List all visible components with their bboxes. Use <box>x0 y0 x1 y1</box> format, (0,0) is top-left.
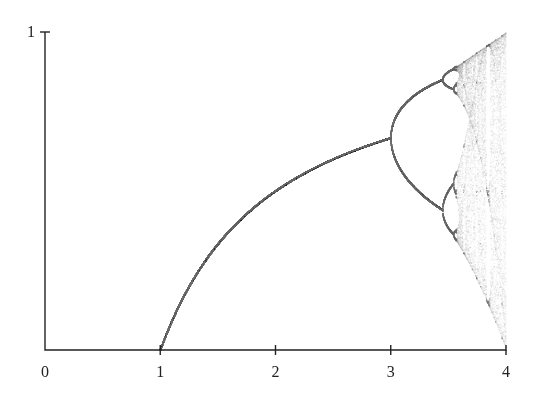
x-tick-label: 0 <box>41 364 49 380</box>
x-tick-label: 2 <box>272 364 280 380</box>
x-tick-label: 1 <box>156 364 164 380</box>
y-tick-label: 1 <box>27 24 35 40</box>
x-tick-label: 3 <box>387 364 395 380</box>
x-tick-label: 4 <box>502 364 510 380</box>
bifurcation-plot <box>0 0 535 401</box>
